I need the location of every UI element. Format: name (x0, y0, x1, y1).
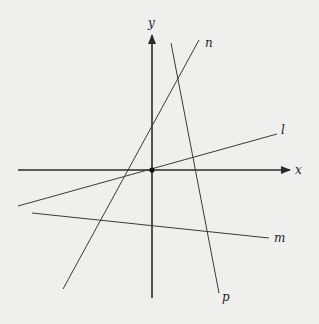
line-p (171, 43, 219, 293)
origin-point (149, 167, 154, 172)
line-n-label: n (205, 36, 213, 50)
line-p-label: p (222, 290, 230, 304)
line-n (63, 40, 199, 289)
x-axis-label: x (295, 163, 302, 177)
line-m (32, 213, 269, 238)
line-m-label: m (274, 231, 285, 245)
diagram-canvas: x y n p l m (0, 0, 319, 324)
line-l-label: l (281, 123, 285, 137)
y-axis-label: y (147, 16, 155, 30)
coordinate-plane: x y n p l m (0, 0, 319, 324)
